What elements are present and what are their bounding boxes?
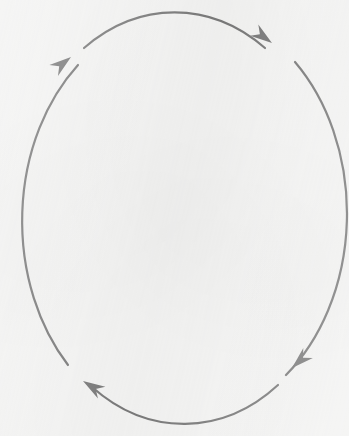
diagram-canvas	[0, 0, 349, 436]
cycle-diagram	[0, 0, 349, 436]
